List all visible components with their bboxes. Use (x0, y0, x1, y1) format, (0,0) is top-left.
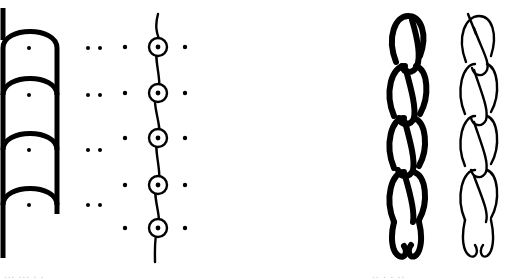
chain-thin-tail-right (481, 220, 493, 257)
right-dot (183, 183, 187, 187)
dot-pair-column (86, 46, 102, 207)
pair-dot (86, 203, 90, 207)
crochet-chain-thin-panel (446, 0, 514, 280)
chain-tail-left (392, 222, 406, 257)
chain-tail-right (409, 222, 421, 257)
hook-arch-strokes (3, 8, 57, 258)
loop-centre-dot (156, 226, 161, 231)
chain-thin-cross-3 (471, 122, 487, 177)
wavy-loop-svg (110, 0, 240, 280)
hook-centre-dot (27, 93, 31, 97)
left-dot (123, 136, 127, 140)
pair-dot (86, 93, 90, 97)
chain-link-cross-3 (398, 122, 414, 176)
chain-thin-cross-4 (474, 176, 487, 222)
chain-link-loop-2-left (390, 66, 405, 116)
right-dot (183, 226, 187, 230)
pair-dot (98, 46, 102, 50)
chain-thin-cross-1 (472, 28, 488, 75)
loop-centre-dot (156, 45, 161, 50)
left-dot (123, 183, 127, 187)
chain-thin-strokes (460, 14, 497, 257)
chain-thin-loop-4-right (487, 170, 497, 218)
hook-centre-dot (27, 203, 31, 207)
left-dot (123, 45, 127, 49)
loop-centre-dot (156, 91, 161, 96)
chain-thin-tail-left (463, 220, 477, 257)
chain-thin-loop-2-right (487, 64, 497, 112)
chain-link-loop-2-right (416, 66, 426, 114)
pair-dot (98, 93, 102, 97)
left-dot (123, 91, 127, 95)
right-dot (183, 136, 187, 140)
chain-thin-loop-4-left (460, 170, 475, 220)
crochet-chain-thin-svg (446, 0, 514, 280)
pair-dot (86, 148, 90, 152)
hook-centre-dots (27, 46, 31, 207)
crochet-chain-thick-panel (372, 0, 444, 280)
chain-thin-loop-3-right (487, 116, 497, 164)
caption-sliver-right: .. . . .. (372, 268, 405, 280)
chain-thick-strokes (389, 16, 426, 257)
caption-sliver-left: ... ... . . (4, 268, 44, 280)
hook-centre-dot (27, 46, 31, 50)
pair-dot (98, 148, 102, 152)
right-dot (183, 91, 187, 95)
loop-centre-dot (156, 183, 161, 188)
figure-canvas: ... ... . . .. . . .. (0, 0, 514, 280)
right-dot (183, 45, 187, 49)
hook-centre-dot (27, 148, 31, 152)
wavy-loop-panel (110, 0, 240, 280)
pair-dot (98, 203, 102, 207)
hook-arch-schematic-panel (0, 0, 120, 280)
pair-dot (86, 46, 90, 50)
crochet-chain-thick-svg (372, 0, 444, 280)
left-dot (123, 226, 127, 230)
chain-link-loop-4-left (389, 172, 404, 222)
hook-arch-schematic-svg (0, 0, 120, 280)
clipped-caption-sliver: ... ... . . .. . . .. (0, 268, 514, 280)
hook-arch-4 (3, 189, 57, 215)
chain-link-cross-4 (405, 176, 414, 222)
loop-centre-dot (156, 136, 161, 141)
